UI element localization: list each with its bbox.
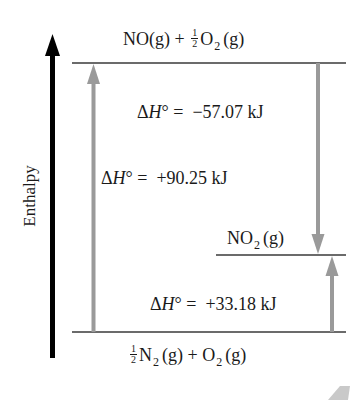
delta-h-value: ° = +90.25 kJ <box>126 168 228 188</box>
axis-label-enthalpy: Enthalpy <box>20 161 40 231</box>
fraction-denominator: 2 <box>192 39 197 49</box>
delta-h-label-formation-NO2: ΔH° = +33.18 kJ <box>150 295 277 313</box>
level-label-top: NO(g) + 1 2 O2(g) <box>123 30 244 51</box>
arrow-NO-to-NO2 <box>312 63 325 254</box>
species-text: N <box>139 345 152 365</box>
fraction-denominator: 2 <box>131 355 136 365</box>
enthalpy-axis-arrow <box>45 34 60 358</box>
level-label-middle: NO2(g) <box>227 229 284 247</box>
delta-symbol: Δ <box>137 102 149 122</box>
fraction-half: 1 2 <box>130 344 137 365</box>
subscript: 2 <box>153 355 159 369</box>
corner-artifact <box>328 386 350 400</box>
species-text: (g) <box>225 345 246 365</box>
subscript: 2 <box>216 355 222 369</box>
species-text: O <box>200 29 213 49</box>
species-text: (g) + O <box>162 345 215 365</box>
delta-h-value: ° = −57.07 kJ <box>162 102 264 122</box>
delta-h-label-formation-NO: ΔH° = +90.25 kJ <box>101 169 228 187</box>
arrow-formation-NO2 <box>326 256 339 332</box>
delta-h-label-NO-to-NO2: ΔH° = −57.07 kJ <box>137 103 264 121</box>
arrow-formation-NO <box>87 64 100 332</box>
species-text: (g) <box>223 29 244 49</box>
subscript: 2 <box>254 238 260 252</box>
subscript: 2 <box>214 39 220 53</box>
diagram-graphics <box>0 0 361 400</box>
species-text: NO <box>227 228 253 248</box>
delta-symbol: Δ <box>150 294 162 314</box>
species-text: (g) <box>263 228 284 248</box>
fraction-half: 1 2 <box>191 28 198 49</box>
enthalpy-symbol: H <box>162 294 175 314</box>
enthalpy-symbol: H <box>149 102 162 122</box>
delta-symbol: Δ <box>101 168 113 188</box>
enthalpy-symbol: H <box>113 168 126 188</box>
species-text: NO(g) + <box>123 29 185 49</box>
level-label-bottom: 1 2 N2(g) + O2(g) <box>128 346 246 367</box>
delta-h-value: ° = +33.18 kJ <box>175 294 277 314</box>
